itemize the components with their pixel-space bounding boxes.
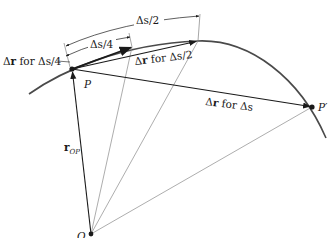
radial-line-p-prime bbox=[91, 107, 312, 234]
point-o-dot bbox=[89, 232, 94, 237]
point-p-prime-label: P′ bbox=[317, 101, 328, 113]
ds-half-label: Δs/2 bbox=[136, 14, 159, 26]
extension-line-quarter bbox=[129, 33, 132, 47]
radial-line-half bbox=[91, 41, 198, 234]
point-p-label: P bbox=[83, 78, 92, 90]
dr-half-label: Δr for Δs/2 bbox=[134, 48, 193, 67]
extension-line-p bbox=[64, 43, 70, 67]
dr-quarter-label: Δr for Δs/4 bbox=[3, 55, 62, 67]
dr-full-label: Δr for Δs bbox=[205, 95, 254, 113]
point-p-dot bbox=[69, 66, 74, 71]
extension-line-half bbox=[198, 14, 200, 41]
r-op-label: rOP bbox=[64, 141, 80, 156]
point-o-label: O bbox=[77, 230, 86, 238]
ds-quarter-label: Δs/4 bbox=[90, 38, 114, 50]
point-p-prime-dot bbox=[309, 104, 314, 109]
displacement-diagram: Δs/2 Δs/4 Δr for Δs/4 Δr for Δs/2 Δr for… bbox=[0, 0, 333, 238]
dr-full-vector bbox=[72, 69, 310, 107]
